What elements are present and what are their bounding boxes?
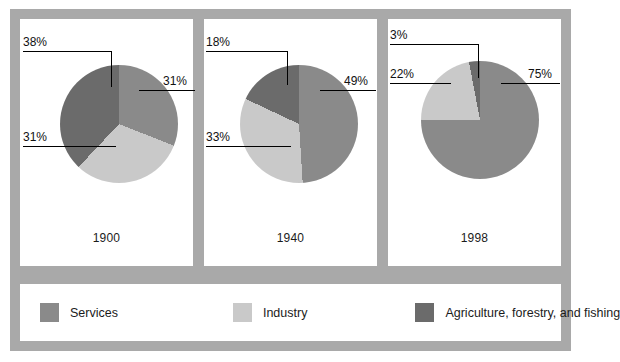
legend-label-services: Services bbox=[70, 306, 118, 320]
legend-swatch-agriculture bbox=[415, 303, 434, 322]
panel-1900: 38% 31% 31% 1900 bbox=[20, 19, 193, 266]
callout-agriculture-1940: 18% bbox=[206, 36, 230, 49]
cropped-caption-sliver bbox=[0, 0, 581, 6]
callout-services-1998: 75% bbox=[528, 68, 552, 81]
callout-agriculture-1940-leader-v bbox=[287, 51, 288, 85]
callout-agriculture-1940-value: 18% bbox=[206, 35, 230, 49]
pie-wrap-1998: 3% 75% 22% bbox=[388, 19, 561, 224]
callout-agriculture-1900-leader-h bbox=[23, 51, 112, 52]
panel-1998: 3% 75% 22% 1998 bbox=[388, 19, 561, 266]
legend-label-industry: Industry bbox=[263, 306, 307, 320]
legend-swatch-services bbox=[40, 303, 59, 322]
callout-services-1940-value: 49% bbox=[344, 74, 368, 88]
callout-agriculture-1998-leader-h bbox=[390, 44, 479, 45]
panel-row: 38% 31% 31% 1900 bbox=[10, 9, 571, 274]
callout-agriculture-1900: 38% bbox=[23, 36, 47, 49]
callout-services-1940: 49% bbox=[344, 75, 368, 88]
panel-1940: 18% 49% 33% 1940 bbox=[204, 19, 377, 266]
callout-industry-1940: 33% bbox=[206, 131, 230, 144]
callout-industry-1940-value: 33% bbox=[206, 130, 230, 144]
callout-services-1998-leader-h bbox=[501, 83, 560, 84]
callout-services-1900-leader-h bbox=[139, 90, 195, 91]
callout-services-1900-value: 31% bbox=[163, 74, 187, 88]
pie-wrap-1900: 38% 31% 31% bbox=[20, 19, 193, 224]
callout-industry-1900: 31% bbox=[23, 131, 47, 144]
callout-services-1998-value: 75% bbox=[528, 67, 552, 81]
panel-year-1940: 1940 bbox=[204, 231, 377, 245]
legend-item-agriculture: Agriculture, forestry, and fishing bbox=[415, 303, 620, 322]
callout-industry-1900-leader-h bbox=[23, 146, 116, 147]
pie-chart-1998 bbox=[421, 61, 539, 179]
callout-services-1940-leader-h bbox=[320, 90, 376, 91]
callout-agriculture-1900-leader-v bbox=[111, 51, 112, 87]
callout-industry-1940-leader-h bbox=[206, 146, 291, 147]
panel-year-1998: 1998 bbox=[388, 231, 561, 245]
pie-chart-1900 bbox=[60, 65, 178, 183]
callout-agriculture-1900-value: 38% bbox=[23, 35, 47, 49]
callout-industry-1900-value: 31% bbox=[23, 130, 47, 144]
callout-industry-1998-value: 22% bbox=[390, 67, 414, 81]
legend: Services Industry Agriculture, forestry,… bbox=[20, 284, 561, 341]
pie-wrap-1940: 18% 49% 33% bbox=[204, 19, 377, 224]
callout-services-1900: 31% bbox=[163, 75, 187, 88]
callout-industry-1998: 22% bbox=[390, 68, 414, 81]
legend-swatch-industry bbox=[233, 303, 252, 322]
callout-agriculture-1998-leader-v bbox=[478, 44, 479, 78]
legend-item-industry: Industry bbox=[233, 303, 307, 322]
callout-agriculture-1998-value: 3% bbox=[390, 28, 407, 42]
legend-label-agriculture: Agriculture, forestry, and fishing bbox=[445, 306, 620, 320]
callout-agriculture-1998: 3% bbox=[390, 29, 407, 42]
pie-chart-1940 bbox=[240, 65, 358, 183]
legend-item-services: Services bbox=[40, 303, 118, 322]
panel-year-1900: 1900 bbox=[20, 231, 193, 245]
callout-industry-1998-leader-h bbox=[390, 83, 451, 84]
callout-agriculture-1940-leader-h bbox=[206, 51, 288, 52]
